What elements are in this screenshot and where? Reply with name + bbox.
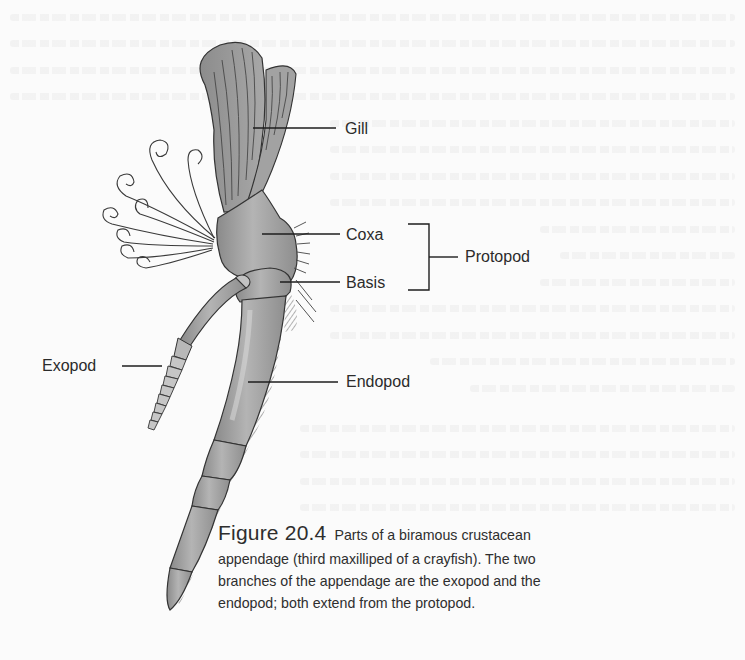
- label-basis: Basis: [346, 274, 385, 292]
- figure-number: Figure 20.4: [218, 521, 326, 544]
- gill-drawing: [200, 42, 296, 212]
- label-protopod: Protopod: [465, 248, 530, 266]
- caption-line-3: branches of the appendage are the exopod…: [218, 570, 718, 592]
- caption-line-1: Parts of a biramous crustacean: [334, 527, 530, 543]
- label-exopod: Exopod: [42, 357, 96, 375]
- curly-setae: [103, 140, 215, 268]
- textbook-page: Gill Coxa Basis Protopod Exopod Endopod …: [0, 0, 745, 660]
- label-gill: Gill: [345, 120, 368, 138]
- caption-line-4: endopod; both extend from the protopod.: [218, 592, 718, 614]
- figure-caption: Figure 20.4Parts of a biramous crustacea…: [218, 520, 718, 614]
- caption-line-2: appendage (third maxilliped of a crayfis…: [218, 548, 718, 570]
- label-coxa: Coxa: [346, 226, 383, 244]
- setae-fringe: [296, 280, 316, 322]
- label-endopod: Endopod: [346, 373, 410, 391]
- protopod-bracket: [408, 224, 429, 290]
